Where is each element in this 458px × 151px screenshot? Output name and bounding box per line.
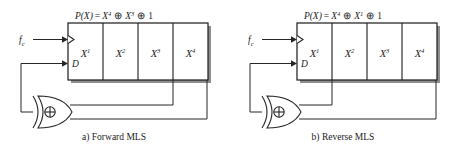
clock-input-arrow-forward xyxy=(33,36,68,42)
clock-input-label-reverse: fc xyxy=(248,35,254,47)
tap-wire-x1-reverse xyxy=(299,80,332,105)
tap-wire-x3-forward xyxy=(70,80,173,105)
tap-wire-x4-reverse xyxy=(299,80,436,119)
tap-wire-x4-forward xyxy=(70,80,207,119)
diagram-forward-mls: P(X)=X4⊕X3⊕1 X1 X2 X3 X4 fc xyxy=(0,0,229,151)
figure-lfsr-diagrams: P(X)=X4⊕X3⊕1 X1 X2 X3 X4 fc xyxy=(0,0,458,151)
xor-gate-reverse xyxy=(262,96,301,128)
diagram-reverse-mls: P(X)=X4⊕X1⊕1 X1 X2 X3 X4 fc xyxy=(229,0,458,151)
caption-forward: a) Forward MLS xyxy=(82,132,146,143)
xor-gate-forward xyxy=(33,96,72,128)
polynomial-label-reverse: P(X)=X4⊕X1⊕1 xyxy=(303,10,382,23)
clock-input-arrow-reverse xyxy=(262,36,297,42)
data-input-arrow-reverse xyxy=(262,60,297,66)
data-input-label-forward: D xyxy=(71,59,79,69)
data-input-label-reverse: D xyxy=(300,59,308,69)
polynomial-label-forward: P(X)=X4⊕X3⊕1 xyxy=(74,10,153,23)
clock-input-label-forward: fc xyxy=(19,35,25,47)
caption-reverse: b) Reverse MLS xyxy=(312,132,375,143)
data-input-arrow-forward xyxy=(33,60,68,66)
